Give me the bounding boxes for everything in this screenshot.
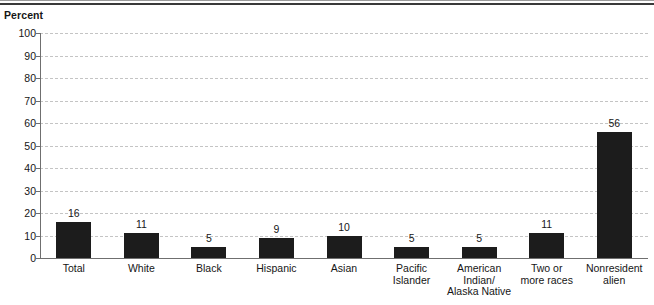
bar (56, 222, 91, 258)
y-axis-tick-label: 60 (3, 118, 36, 129)
x-axis-category-label: Nonresident alien (576, 263, 652, 286)
gridline (40, 146, 648, 147)
bar-value-label: 11 (111, 219, 171, 230)
bar (191, 247, 226, 258)
x-axis-category-label: American Indian/ Alaska Native (441, 263, 517, 298)
gridline (40, 123, 648, 124)
y-axis-tick-label: 0 (3, 253, 36, 264)
bar-value-label: 11 (517, 219, 577, 230)
y-axis-tick-label: 10 (3, 231, 36, 242)
bar-value-label: 5 (179, 233, 239, 244)
bar-value-label: 5 (382, 233, 442, 244)
y-axis-tick-label: 20 (3, 208, 36, 219)
bar-value-label: 10 (314, 222, 374, 233)
bar-value-label: 5 (449, 233, 509, 244)
x-axis-category-label: Two or more races (509, 263, 585, 286)
y-axis-tick-label: 70 (3, 96, 36, 107)
x-axis-category-label: Asian (306, 263, 382, 275)
x-axis-line (40, 258, 648, 259)
bar (259, 238, 294, 258)
bar (124, 233, 159, 258)
y-axis-tick-label: 80 (3, 73, 36, 84)
gridline (40, 101, 648, 102)
bar-value-label: 56 (584, 118, 644, 129)
gridline (40, 78, 648, 79)
bar (462, 247, 497, 258)
gridline (40, 56, 648, 57)
x-axis-category-label: Total (36, 263, 112, 275)
y-axis-tick-label: 50 (3, 141, 36, 152)
y-axis-tick-label: 30 (3, 186, 36, 197)
x-axis-category-label: Hispanic (239, 263, 315, 275)
bar (597, 132, 632, 258)
y-axis-tick-label: 100 (3, 28, 36, 39)
bar (529, 233, 564, 258)
bar (394, 247, 429, 258)
bar-chart: Percent 0102030405060708090100 161159105… (0, 0, 654, 305)
bar (327, 236, 362, 259)
bar-value-label: 9 (246, 224, 306, 235)
x-axis-category-label: Pacific Islander (374, 263, 450, 286)
gridline (40, 213, 648, 214)
y-axis-tick-label: 40 (3, 163, 36, 174)
plot-area: 0102030405060708090100 16115910551156 To… (0, 0, 654, 305)
bar-value-label: 16 (44, 208, 104, 219)
x-axis-category-label: White (104, 263, 180, 275)
y-axis-line (40, 33, 41, 259)
gridline (40, 191, 648, 192)
x-axis-category-label: Black (171, 263, 247, 275)
gridline (40, 33, 648, 34)
y-axis-tick-label: 90 (3, 51, 36, 62)
gridline (40, 168, 648, 169)
